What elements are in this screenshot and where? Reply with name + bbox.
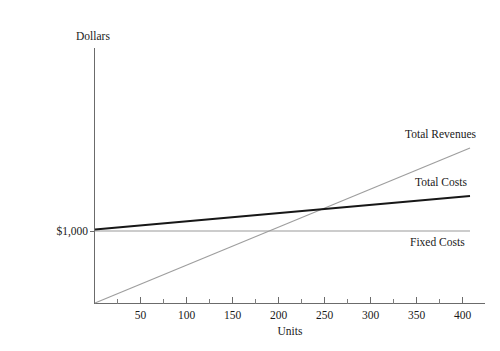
- x-tick-label-350: 350: [408, 309, 426, 321]
- line-total-costs: [95, 196, 470, 230]
- series-label-fixed-costs: Fixed Costs: [410, 236, 465, 248]
- chart-canvas: Dollars Units $1,000 50 100 150 200 250 …: [0, 0, 500, 351]
- x-tick-label-400: 400: [454, 309, 472, 321]
- series-label-total-revenues: Total Revenues: [405, 128, 477, 140]
- y-tick-label-1000: $1,000: [56, 225, 88, 238]
- line-total-revenues: [95, 148, 470, 303]
- y-axis-title: Dollars: [76, 30, 110, 42]
- series-label-total-costs: Total Costs: [415, 176, 467, 188]
- x-tick-label-250: 250: [316, 309, 334, 321]
- x-tick-labels: 50 100 150 200 250 300 350 400: [135, 309, 472, 321]
- x-axis-title: Units: [278, 325, 303, 337]
- x-tick-label-300: 300: [362, 309, 380, 321]
- x-tick-label-50: 50: [135, 309, 147, 321]
- series-group: [95, 148, 470, 303]
- cost-volume-profit-chart: Dollars Units $1,000 50 100 150 200 250 …: [0, 0, 500, 351]
- x-tick-label-150: 150: [224, 309, 242, 321]
- x-axis-ticks: [118, 297, 463, 304]
- series-labels: Total Revenues Total Costs Fixed Costs: [405, 128, 477, 248]
- x-tick-label-100: 100: [178, 309, 196, 321]
- x-tick-label-200: 200: [270, 309, 288, 321]
